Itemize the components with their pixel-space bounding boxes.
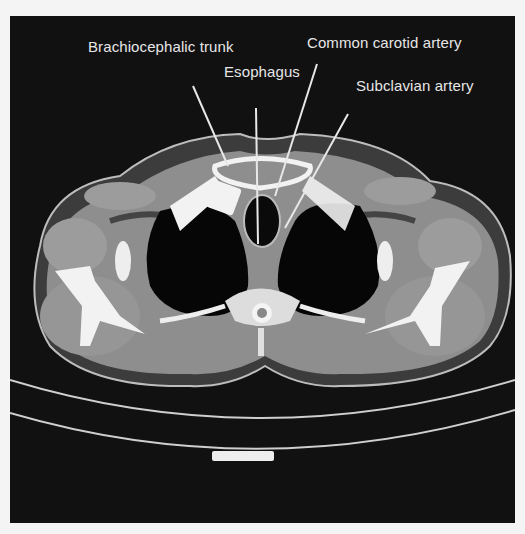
ct-scan-image: Brachiocephalic trunk Common carotid art…	[10, 16, 515, 523]
label-esophagus: Esophagus	[224, 63, 300, 80]
table-marker	[212, 451, 274, 461]
label-common-carotid-artery: Common carotid artery	[307, 34, 462, 51]
label-subclavian-artery: Subclavian artery	[356, 77, 474, 94]
label-brachiocephalic-trunk: Brachiocephalic trunk	[88, 38, 234, 55]
